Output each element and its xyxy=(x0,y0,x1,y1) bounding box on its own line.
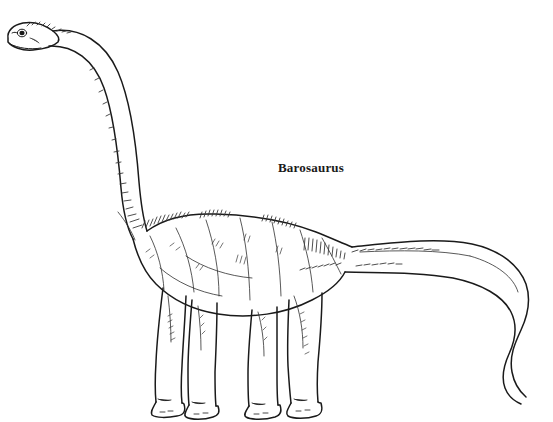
species-label: Barosaurus xyxy=(278,161,344,174)
barosaurus-line-drawing xyxy=(0,0,553,422)
eye xyxy=(19,31,24,35)
illustration-canvas: Barosaurus xyxy=(0,0,553,422)
nostril xyxy=(12,32,17,33)
